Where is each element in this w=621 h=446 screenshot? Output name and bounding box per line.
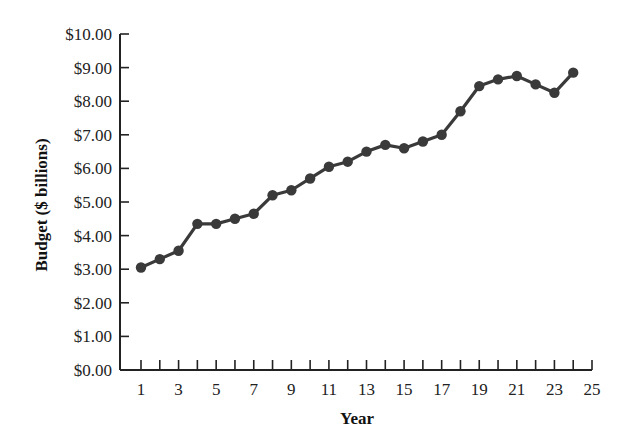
data-point [436, 130, 446, 140]
data-point [173, 246, 183, 256]
y-tick-label: $2.00 [74, 294, 112, 313]
y-axis: $0.00$1.00$2.00$3.00$4.00$5.00$6.00$7.00… [65, 25, 129, 380]
data-point [230, 214, 240, 224]
x-tick-label: 3 [174, 380, 183, 399]
data-point [380, 140, 390, 150]
y-tick-label: $1.00 [74, 327, 112, 346]
data-point [418, 136, 428, 146]
x-tick-label: 17 [433, 380, 451, 399]
data-point [512, 71, 522, 81]
data-point [474, 81, 484, 91]
data-point [343, 156, 353, 166]
x-tick-label: 23 [546, 380, 563, 399]
y-axis-title: Budget ($ billions) [32, 138, 51, 271]
data-point [249, 209, 259, 219]
data-point [192, 219, 202, 229]
y-tick-label: $8.00 [74, 92, 112, 111]
y-tick-label: $6.00 [74, 159, 112, 178]
data-point [155, 254, 165, 264]
data-series [136, 67, 579, 272]
data-point [211, 219, 221, 229]
x-tick-label: 15 [396, 380, 413, 399]
x-tick-label: 5 [212, 380, 221, 399]
y-tick-label: $7.00 [74, 126, 112, 145]
y-tick-label: $9.00 [74, 59, 112, 78]
data-point [455, 106, 465, 116]
x-tick-label: 25 [584, 380, 601, 399]
x-tick-label: 13 [358, 380, 375, 399]
data-point [530, 79, 540, 89]
data-point [286, 185, 296, 195]
series-line [141, 73, 573, 268]
data-point [549, 88, 559, 98]
x-tick-label: 19 [471, 380, 488, 399]
y-tick-label: $10.00 [65, 25, 112, 44]
x-tick-label: 11 [321, 380, 337, 399]
data-point [324, 162, 334, 172]
line-chart: $0.00$1.00$2.00$3.00$4.00$5.00$6.00$7.00… [0, 0, 621, 446]
data-point [361, 146, 371, 156]
data-point [267, 190, 277, 200]
x-tick-label: 1 [137, 380, 146, 399]
x-axis-title: Year [340, 409, 374, 428]
x-axis: 135791113151719212325 [120, 360, 601, 399]
data-point [305, 173, 315, 183]
y-tick-label: $4.00 [74, 227, 112, 246]
y-tick-label: $5.00 [74, 193, 112, 212]
y-tick-label: $0.00 [74, 361, 112, 380]
y-tick-label: $3.00 [74, 260, 112, 279]
x-tick-label: 7 [250, 380, 259, 399]
data-point [493, 74, 503, 84]
data-point [136, 262, 146, 272]
x-tick-label: 21 [508, 380, 525, 399]
data-point [399, 143, 409, 153]
data-point [568, 67, 578, 77]
x-tick-label: 9 [287, 380, 296, 399]
